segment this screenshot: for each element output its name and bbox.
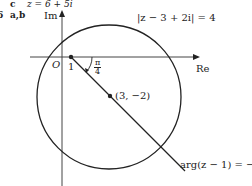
angle-label: π4: [94, 59, 101, 76]
ray-start-point: [69, 55, 73, 59]
part-ab-label: a,b: [10, 11, 25, 20]
center-point-label: (3, −2): [115, 91, 150, 101]
tick-one-label: 1: [68, 62, 74, 72]
angle-denominator: 4: [95, 68, 100, 76]
circle-equation-label: |z − 3 + 2i| = 4: [137, 13, 216, 23]
locus-ray: [71, 57, 185, 171]
imaginary-axis-arrow-icon: [59, 10, 65, 17]
imaginary-axis-label: Im: [44, 11, 57, 21]
center-point: [108, 94, 112, 98]
real-axis-arrow-icon: [193, 54, 200, 60]
ray-equation-label: arg(z − 1) = −π4: [180, 157, 252, 174]
real-axis-label: Re: [196, 64, 209, 74]
origin-label: O: [52, 60, 60, 70]
part-c-answer: z = 6 + 5i: [27, 0, 73, 9]
question-number: 6: [0, 11, 3, 20]
part-c-label: c: [10, 0, 15, 9]
ray-equation-text: arg(z − 1) = −: [180, 159, 252, 170]
